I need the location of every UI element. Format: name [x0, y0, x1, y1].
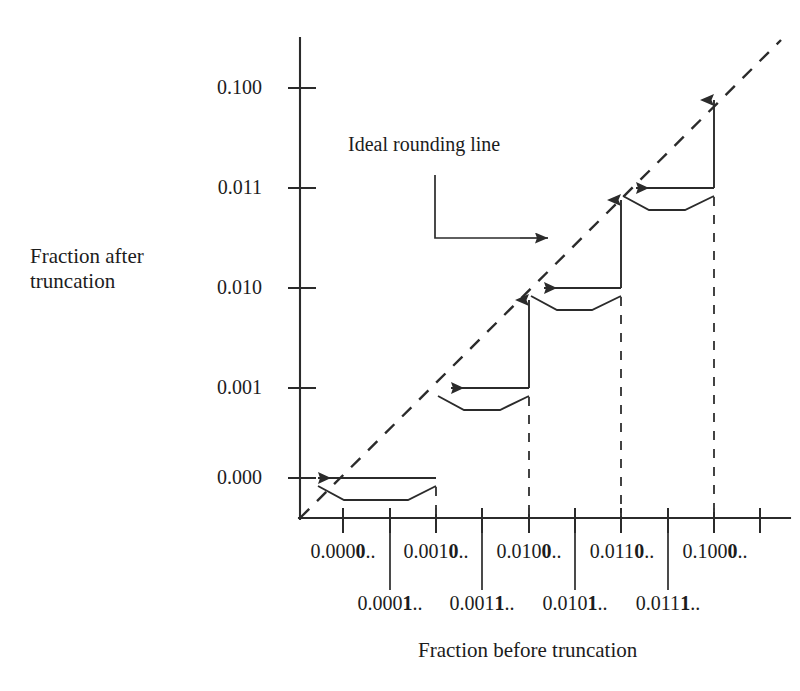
x-tick-label-secondary-2: 0.0101.. — [529, 592, 621, 616]
y-axis-title-line1: Fraction after — [30, 244, 144, 269]
ideal-line-callout-leader — [435, 175, 548, 238]
y-axis-title: Fraction after truncation — [30, 244, 144, 294]
x-tick-label-primary-0: 0.0000.. — [297, 540, 389, 564]
ideal-rounding-line-label: Ideal rounding line — [348, 133, 500, 157]
x-tick-label-primary-4: 0.1000.. — [669, 540, 761, 564]
step-segment-3 — [531, 200, 621, 516]
x-tick-label-secondary-1: 0.0011.. — [436, 592, 528, 616]
y-axis — [288, 38, 316, 519]
x-axis — [299, 508, 790, 533]
x-tick-label-primary-1: 0.0010.. — [390, 540, 482, 564]
y-tick-label-0010: 0.010 — [182, 276, 262, 300]
y-axis-title-line2: truncation — [30, 269, 144, 294]
y-tick-label-0000: 0.000 — [182, 466, 262, 490]
x-tick-label-primary-3: 0.0110.. — [576, 540, 668, 564]
y-tick-label-0001: 0.001 — [182, 376, 262, 400]
x-tick-label-primary-2: 0.0100.. — [483, 540, 575, 564]
ideal-rounding-line — [300, 40, 781, 518]
truncation-rounding-figure: 0.100 0.011 0.010 0.001 0.000 Fraction a… — [0, 0, 800, 691]
x-tick-label-secondary-3: 0.0111.. — [622, 592, 714, 616]
y-tick-label-0100: 0.100 — [182, 76, 262, 100]
step-segment-4 — [623, 100, 714, 516]
diagram-canvas — [0, 0, 800, 691]
y-tick-label-0011: 0.011 — [182, 176, 262, 200]
step-segment-2 — [438, 300, 529, 516]
x-axis-title: Fraction before truncation — [418, 638, 637, 663]
x-tick-label-secondary-0: 0.0001.. — [344, 592, 436, 616]
